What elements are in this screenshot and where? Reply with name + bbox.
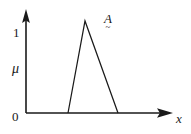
y-axis-tick-label-one: 1: [13, 26, 20, 39]
origin-tick-label-zero: 0: [12, 110, 19, 123]
triangular-membership-curve: [68, 21, 118, 113]
y-axis-title-mu: μ: [12, 62, 19, 76]
x-axis-title-x: x: [176, 112, 182, 125]
fuzzy-set-under-tilde-icon: ~: [106, 23, 111, 32]
membership-function-figure: 1 μ 0 x A ~: [0, 0, 191, 134]
figure-canvas: [0, 0, 191, 134]
fuzzy-set-label-a: A ~: [104, 12, 112, 32]
